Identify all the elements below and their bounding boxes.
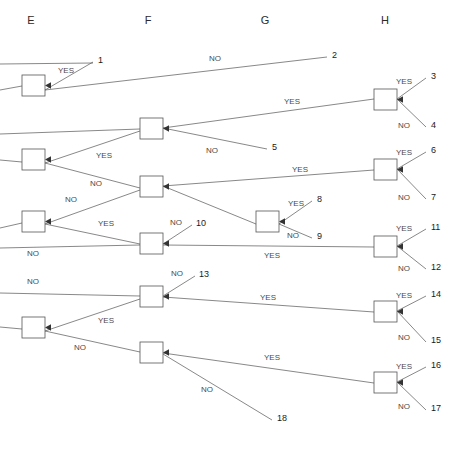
branch-label-yes: YES <box>396 148 412 157</box>
tree-edge <box>45 299 140 331</box>
branch-label-yes: YES <box>264 251 280 260</box>
branch-label-yes: YES <box>396 77 412 86</box>
tree-edge <box>163 354 272 420</box>
arrow-heads-layer <box>45 82 403 385</box>
leaf-node-18[interactable]: 18 <box>277 413 287 423</box>
branch-label-no: NO <box>27 277 39 286</box>
tree-edge <box>0 245 140 248</box>
leaf-node-4[interactable]: 4 <box>431 120 436 130</box>
branch-label-yes: YES <box>396 291 412 300</box>
branch-label-no: NO <box>27 249 39 258</box>
branch-label-no: NO <box>65 195 77 204</box>
tree-edge <box>45 224 140 244</box>
branch-label-no: NO <box>398 193 410 202</box>
tree-edge <box>163 170 374 186</box>
edge-arrow-head <box>163 240 169 246</box>
edges-layer <box>0 57 426 420</box>
tree-edge <box>45 331 140 352</box>
branch-label-yes: YES <box>98 316 114 325</box>
branch-label-yes: YES <box>264 353 280 362</box>
branch-label-no: NO <box>201 385 213 394</box>
tree-edge <box>45 190 140 224</box>
leaf-node-17[interactable]: 17 <box>431 403 441 413</box>
tree-canvas: YESNOYESYESNOYESNOYESYESNONONOYESYESNONO… <box>0 0 463 451</box>
branch-label-no: NO <box>398 121 410 130</box>
leaf-node-16[interactable]: 16 <box>431 360 441 370</box>
tree-edge <box>163 225 192 244</box>
decision-node[interactable] <box>374 89 397 110</box>
leaf-node-14[interactable]: 14 <box>431 289 441 299</box>
decision-node[interactable] <box>22 149 45 170</box>
leaf-node-1[interactable]: 1 <box>98 55 103 65</box>
leaf-node-3[interactable]: 3 <box>431 71 436 81</box>
decision-node[interactable] <box>374 301 397 322</box>
edge-arrow-head <box>163 183 169 189</box>
tree-edge <box>0 327 22 329</box>
leaf-node-8[interactable]: 8 <box>317 194 322 204</box>
edge-arrow-head <box>163 125 169 131</box>
decision-node[interactable] <box>22 75 45 96</box>
branch-label-no: NO <box>171 269 183 278</box>
branch-label-no: NO <box>170 218 182 227</box>
column-headers-layer: EFGH <box>27 14 389 26</box>
leaf-node-2[interactable]: 2 <box>332 50 337 60</box>
branch-label-no: NO <box>209 54 221 63</box>
tree-edge <box>163 99 374 128</box>
branch-label-no: NO <box>90 179 102 188</box>
branch-label-no: NO <box>74 343 86 352</box>
decision-node[interactable] <box>140 176 163 197</box>
tree-edge <box>45 131 140 163</box>
column-header-e: E <box>27 14 34 26</box>
tree-edge <box>0 63 93 64</box>
decision-tree-diagram: YESNOYESYESNOYESNOYESYESNONONOYESYESNONO… <box>0 0 463 451</box>
column-header-f: F <box>145 14 152 26</box>
tree-edge <box>163 245 374 247</box>
branch-label-no: NO <box>398 333 410 342</box>
decision-node[interactable] <box>140 286 163 307</box>
decision-node[interactable] <box>374 159 397 180</box>
tree-edge <box>0 129 140 134</box>
branch-label-yes: YES <box>260 293 276 302</box>
decision-node[interactable] <box>140 233 163 254</box>
tree-edge <box>45 57 327 90</box>
decision-node[interactable] <box>140 118 163 139</box>
decision-node[interactable] <box>140 342 163 363</box>
branch-label-no: NO <box>398 402 410 411</box>
tree-edge <box>0 293 140 296</box>
branch-label-yes: YES <box>288 199 304 208</box>
branch-label-yes: YES <box>396 362 412 371</box>
leaf-node-9[interactable]: 9 <box>317 231 322 241</box>
decision-node[interactable] <box>22 317 45 338</box>
branch-label-no: NO <box>206 146 218 155</box>
leaf-node-10[interactable]: 10 <box>196 218 206 228</box>
leaf-node-12[interactable]: 12 <box>431 262 441 272</box>
branch-label-no: NO <box>287 231 299 240</box>
branch-label-yes: YES <box>292 165 308 174</box>
decision-node[interactable] <box>374 372 397 393</box>
leaf-node-13[interactable]: 13 <box>199 269 209 279</box>
tree-edge <box>0 223 22 228</box>
leaf-node-11[interactable]: 11 <box>431 222 440 232</box>
leaf-node-6[interactable]: 6 <box>431 145 436 155</box>
edge-arrow-head <box>45 82 51 88</box>
leaf-node-15[interactable]: 15 <box>431 335 441 345</box>
decision-node[interactable] <box>256 211 279 232</box>
tree-edge <box>0 160 22 162</box>
decision-node[interactable] <box>22 211 45 232</box>
tree-edge <box>163 276 195 296</box>
branch-label-yes: YES <box>396 224 412 233</box>
column-header-g: G <box>261 14 270 26</box>
branch-label-yes: YES <box>98 219 114 228</box>
decision-node[interactable] <box>374 236 397 257</box>
column-header-h: H <box>381 14 389 26</box>
tree-edge <box>0 86 22 90</box>
branch-label-yes: YES <box>96 151 112 160</box>
branch-label-yes: YES <box>58 66 74 75</box>
leaf-node-5[interactable]: 5 <box>272 142 277 152</box>
branch-label-no: NO <box>398 264 410 273</box>
leaf-node-7[interactable]: 7 <box>431 192 436 202</box>
branch-label-yes: YES <box>284 97 300 106</box>
